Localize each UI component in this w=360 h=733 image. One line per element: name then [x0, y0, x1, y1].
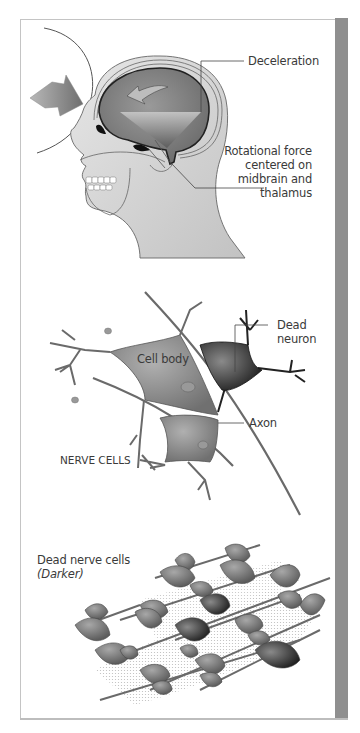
impact-arrow-icon: [30, 75, 83, 116]
label-dead-nerve-cells: Dead nerve cells: [37, 553, 130, 567]
label-darker: (Darker): [37, 567, 83, 581]
label-axon: Axon: [249, 416, 277, 430]
label-rotational-line-2: centered on: [215, 158, 312, 172]
label-cell-body: Cell body: [137, 352, 189, 366]
label-rotational-force: Rotational force centered on midbrain an…: [215, 144, 312, 200]
label-dead-neuron: Dead neuron: [277, 318, 316, 346]
label-nerve-cells: NERVE CELLS: [60, 453, 131, 467]
label-rotational-line-4: thalamus: [215, 186, 312, 200]
dead-neuron: [200, 342, 262, 390]
dead-nerve-cells-illustration: [75, 544, 330, 705]
label-deceleration: Deceleration: [248, 54, 319, 68]
label-rotational-line-1: Rotational force: [215, 144, 312, 158]
lower-cell-body: [160, 415, 218, 462]
label-dead-neuron-line-1: Dead: [277, 318, 316, 332]
head-illustration: [30, 28, 264, 258]
label-rotational-line-3: midbrain and: [215, 172, 312, 186]
label-dead-neuron-line-2: neuron: [277, 332, 316, 346]
nerve-cells-illustration: [50, 292, 305, 515]
illustration: [0, 0, 360, 733]
